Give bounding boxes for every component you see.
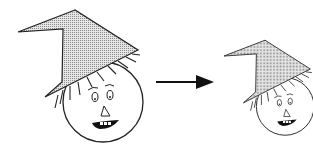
scaled-scarecrow <box>224 40 313 135</box>
arrow-right-icon <box>156 75 214 89</box>
diagram-svg <box>0 0 313 145</box>
diagram-canvas <box>0 0 313 145</box>
original-scarecrow <box>18 10 143 142</box>
